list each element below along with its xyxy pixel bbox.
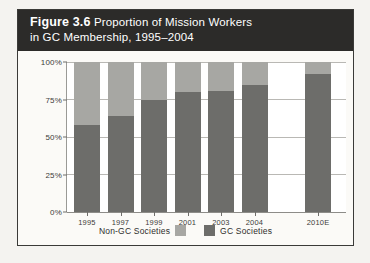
figure-title-text: Proportion of Mission Workers — [91, 16, 253, 28]
bar-2003[interactable] — [208, 62, 234, 212]
bar-segment-non-gc-2010E — [305, 62, 331, 74]
figure-title-line-2: in GC Membership, 1995–2004 — [30, 30, 343, 45]
plot-area: 0%25%50%75%100%1995199719992001200320042… — [66, 62, 346, 212]
y-axis-label-0: 0% — [50, 208, 62, 217]
bar-2004[interactable] — [242, 62, 268, 212]
figure-title-band: Figure 3.6 Proportion of Mission Workers… — [18, 10, 353, 51]
chart-legend: Non-GC Societies GC Societies — [18, 225, 353, 236]
bar-2001[interactable] — [175, 62, 201, 212]
bar-segment-non-gc-1999 — [141, 62, 167, 100]
bar-segment-gc-2001 — [175, 92, 201, 212]
y-axis-label-50: 50% — [45, 133, 62, 142]
bar-segment-non-gc-2001 — [175, 62, 201, 92]
y-axis-label-25: 25% — [45, 170, 62, 179]
legend-entry-gc: GC Societies — [204, 225, 272, 236]
legend-label-gc: GC Societies — [220, 226, 272, 236]
x-tick-mark-2004 — [255, 212, 256, 216]
bar-1995[interactable] — [74, 62, 100, 212]
bar-1999[interactable] — [141, 62, 167, 212]
bar-segment-gc-2010E — [305, 74, 331, 212]
x-tick-mark-1997 — [121, 212, 122, 216]
x-tick-mark-1999 — [154, 212, 155, 216]
figure-page: Figure 3.6 Proportion of Mission Workers… — [0, 0, 370, 263]
bar-segment-gc-2003 — [208, 91, 234, 213]
bar-1997[interactable] — [108, 62, 134, 212]
bar-segment-non-gc-1997 — [108, 62, 134, 116]
bar-segment-non-gc-1995 — [74, 62, 100, 125]
y-tick-mark-50 — [63, 137, 67, 138]
legend-entry-non-gc: Non-GC Societies — [99, 225, 186, 236]
x-tick-mark-1995 — [87, 212, 88, 216]
legend-swatch-non-gc — [175, 225, 186, 236]
chart-area: 0%25%50%75%100%1995199719992001200320042… — [18, 51, 353, 245]
y-axis-label-75: 75% — [45, 95, 62, 104]
y-tick-mark-0 — [63, 212, 67, 213]
figure-title-line-1: Figure 3.6 Proportion of Mission Workers — [30, 15, 343, 30]
y-tick-mark-25 — [63, 174, 67, 175]
bar-segment-gc-2004 — [242, 85, 268, 213]
legend-swatch-gc — [204, 225, 215, 236]
bar-segment-gc-1999 — [141, 100, 167, 213]
bar-segment-gc-1997 — [108, 116, 134, 212]
figure-number: Figure 3.6 — [30, 15, 91, 29]
bar-segment-non-gc-2003 — [208, 62, 234, 91]
x-tick-mark-2010E — [318, 212, 319, 216]
figure-frame: Figure 3.6 Proportion of Mission Workers… — [17, 9, 354, 246]
bar-segment-gc-1995 — [74, 125, 100, 212]
bar-segment-non-gc-2004 — [242, 62, 268, 85]
legend-label-non-gc: Non-GC Societies — [99, 226, 170, 236]
y-tick-mark-75 — [63, 99, 67, 100]
y-axis-label-100: 100% — [41, 58, 62, 67]
y-tick-mark-100 — [63, 62, 67, 63]
bar-2010E[interactable] — [305, 62, 331, 212]
x-tick-mark-2001 — [188, 212, 189, 216]
x-tick-mark-2003 — [221, 212, 222, 216]
